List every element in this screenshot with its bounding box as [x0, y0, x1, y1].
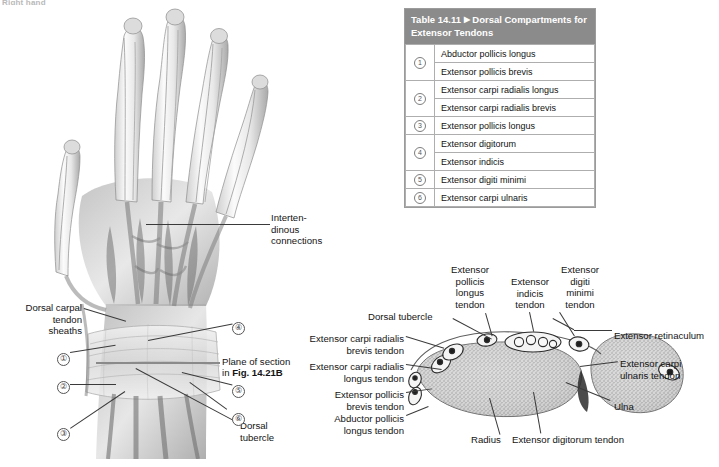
- compartment-number-cell: 3: [406, 117, 435, 135]
- callout-2: ②: [57, 381, 70, 394]
- plane-figure-ref: Fig. 14.21B: [232, 367, 283, 378]
- label-extensor-retinaculum: Extensor retinaculum: [614, 330, 704, 342]
- compartment-number-cell: 5: [406, 171, 435, 189]
- compartment-number-circle: 4: [414, 147, 426, 159]
- plane-prefix: in: [222, 367, 232, 378]
- label-apl-tendon: Abductor pollicis longus tendon: [298, 413, 404, 436]
- compartment-number-cell: 2: [406, 81, 435, 117]
- callout-6: ⑥: [232, 413, 245, 426]
- compartment-number-circle: 5: [414, 174, 426, 186]
- label-extensor-indicis-tendon: Extensor indicis tendon: [505, 276, 555, 311]
- table-14-11: Table 14.11 ▶ Dorsal Compartments for Ex…: [404, 8, 596, 208]
- label-intertendinous-connections: Interten- dinous connections: [271, 212, 322, 247]
- tendon-name-cell: Extensor digitorum: [435, 135, 595, 153]
- table-row: Extensor indicis: [406, 153, 595, 171]
- label-extensor-pollicis-longus-tendon: Extensor pollicis longus tendon: [440, 264, 500, 310]
- callout-5: ⑤: [232, 385, 245, 398]
- tendon-name-cell: Extensor digiti minimi: [435, 171, 595, 189]
- label-dorsal-tubercle-hand: Dorsal tubercle: [240, 420, 274, 443]
- table-row: 6Extensor carpi ulnaris: [406, 189, 595, 207]
- compartment-number-cell: 6: [406, 189, 435, 207]
- label-dorsal-tubercle-xsec: Dorsal tubercle: [368, 311, 433, 323]
- label-ecrb-tendon: Extensor carpi radialis brevis tendon: [276, 333, 404, 356]
- table-row: Extensor carpi radialis brevis: [406, 99, 595, 117]
- figure-page: Right hand: [0, 0, 719, 467]
- plane-of-section-line: [96, 362, 220, 364]
- label-ecu-tendon: Extensor carpi ulnaris tendon: [620, 358, 681, 381]
- tendon-name-cell: Extensor indicis: [435, 153, 595, 171]
- tendon-name-cell: Extensor pollicis longus: [435, 117, 595, 135]
- tendon-name-cell: Extensor pollicis brevis: [435, 63, 595, 81]
- table-row: 2Extensor carpi radialis longus: [406, 81, 595, 99]
- label-ecrl-tendon: Extensor carpi radialis longus tendon: [296, 361, 404, 384]
- table-header: Table 14.11 ▶ Dorsal Compartments for Ex…: [405, 9, 595, 44]
- label-radius: Radius: [471, 434, 501, 446]
- tendon-name-cell: Extensor carpi ulnaris: [435, 189, 595, 207]
- leader-intertendinous: [146, 224, 270, 225]
- triangle-icon: ▶: [464, 15, 470, 24]
- table-number: Table 14.11: [411, 14, 461, 25]
- label-dorsal-carpal-tendon-sheaths: Dorsal carpal tendon sheaths: [8, 302, 82, 337]
- compartment-number-circle: 1: [414, 57, 426, 69]
- label-plane-of-section-line2: in Fig. 14.21B: [222, 367, 283, 379]
- label-extensor-digitorum-tendon: Extensor digitorum tendon: [512, 434, 624, 446]
- table-row: 3Extensor pollicis longus: [406, 117, 595, 135]
- label-extensor-digiti-minimi-tendon: Extensor digiti minimi tendon: [553, 264, 607, 310]
- compartment-number-cell: 4: [406, 135, 435, 171]
- leader-retinaculum-a: [574, 330, 612, 331]
- table-row: 1Abductor pollicis longus: [406, 45, 595, 63]
- compartment-number-circle: 2: [414, 93, 426, 105]
- callout-3: ③: [57, 428, 70, 441]
- label-ulna: Ulna: [614, 401, 634, 413]
- table-row: Extensor pollicis brevis: [406, 63, 595, 81]
- compartment-number-circle: 6: [414, 192, 426, 204]
- leader-callout-2: [70, 384, 116, 385]
- callout-1: ①: [57, 353, 70, 366]
- compartment-table: 1Abductor pollicis longusExtensor pollic…: [405, 44, 595, 207]
- tendon-name-cell: Abductor pollicis longus: [435, 45, 595, 63]
- table-row: 5Extensor digiti minimi: [406, 171, 595, 189]
- label-epb-tendon: Extensor pollicis brevis tendon: [306, 389, 404, 412]
- compartment-number-circle: 3: [414, 120, 426, 132]
- label-plane-of-section-line1: Plane of section: [222, 356, 290, 368]
- compartment-number-cell: 1: [406, 45, 435, 81]
- tendon-name-cell: Extensor carpi radialis brevis: [435, 99, 595, 117]
- table-row: 4Extensor digitorum: [406, 135, 595, 153]
- callout-4: ④: [232, 322, 245, 335]
- tendon-name-cell: Extensor carpi radialis longus: [435, 81, 595, 99]
- dorsal-hand-illustration: [10, 4, 310, 459]
